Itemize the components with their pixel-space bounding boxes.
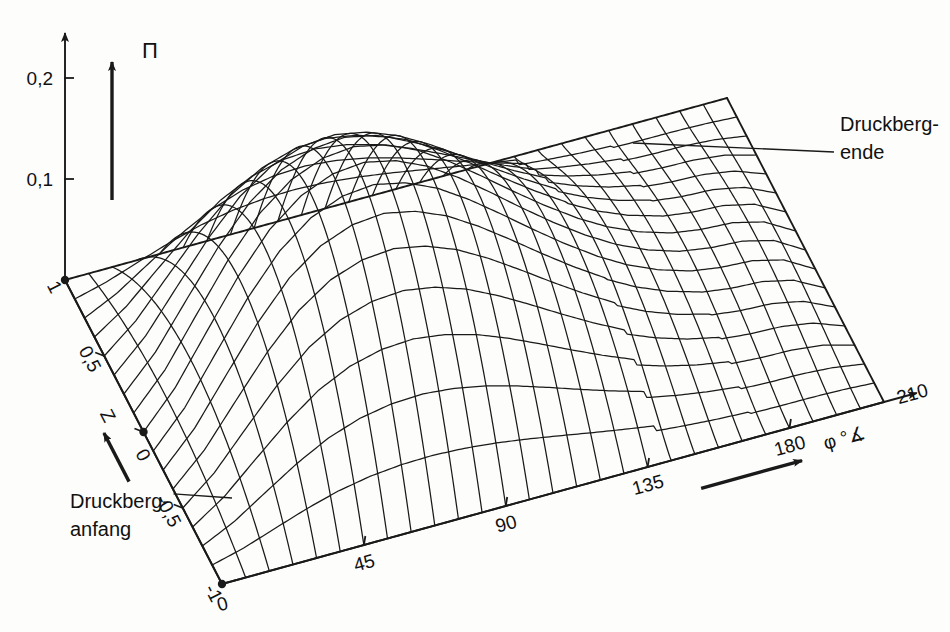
mesh-line-constant-phi bbox=[183, 205, 340, 552]
mesh-line-constant-phi bbox=[585, 137, 742, 441]
tick-label-z-0: 1 bbox=[43, 277, 67, 296]
tick-label-phi-4: 180 bbox=[772, 431, 808, 460]
tick-phi-4 bbox=[789, 419, 791, 428]
axis-phi bbox=[222, 393, 917, 584]
mesh-line-constant-phi bbox=[491, 162, 648, 467]
axis-z-zero-marker bbox=[139, 428, 147, 436]
mesh-line-constant-phi bbox=[301, 133, 458, 519]
mesh-line-constant-z bbox=[202, 364, 864, 546]
mesh-line-constant-z bbox=[212, 383, 874, 565]
mesh-line-constant-z bbox=[193, 335, 855, 527]
annotation-druckberg-ende-line1: Druckberg- bbox=[840, 113, 939, 135]
annotation-druckberg-anfang-line2: anfang bbox=[70, 518, 131, 540]
tick-phi-2 bbox=[506, 497, 508, 506]
annotation-druckberg-anfang-line1: Druckberg- bbox=[70, 490, 169, 512]
axis-label-pi: Π bbox=[142, 38, 158, 63]
leader-line-druckberg-anfang bbox=[173, 494, 232, 498]
surface-plot-canvas: Π0,20,104590135180210φ °∡10,50-0,5-1ZDru… bbox=[0, 0, 950, 632]
mesh-line-constant-phi bbox=[372, 141, 529, 499]
tick-label-phi-3: 135 bbox=[630, 470, 666, 499]
tick-label-phi-1: 45 bbox=[351, 550, 377, 576]
tick-label-z-2: 0 bbox=[132, 445, 156, 464]
tick-label-pi-0: 0,2 bbox=[27, 68, 53, 89]
axis-labels-group: Π0,20,104590135180210φ °∡10,50-0,5-1ZDru… bbox=[27, 38, 939, 615]
surface-plot-figure: Π0,20,104590135180210φ °∡10,50-0,5-1ZDru… bbox=[0, 0, 950, 632]
axis-label-phi: φ °∡ bbox=[821, 422, 867, 453]
leader-line-druckberg-ende bbox=[633, 143, 834, 152]
axis-label-z: Z bbox=[96, 406, 120, 426]
phi-direction-arrow bbox=[701, 461, 802, 489]
mesh-line-constant-phi bbox=[443, 160, 600, 480]
tick-phi-3 bbox=[648, 458, 650, 467]
tick-label-phi-2: 90 bbox=[493, 511, 519, 537]
mesh-line-constant-phi bbox=[231, 161, 388, 539]
z-direction-arrow bbox=[104, 433, 129, 482]
annotation-druckberg-ende-line2: ende bbox=[840, 141, 885, 163]
tick-label-phi-5: 210 bbox=[894, 379, 930, 408]
surface-mesh bbox=[65, 98, 884, 584]
mesh-line-constant-phi bbox=[349, 135, 506, 506]
mesh-line-constant-z bbox=[124, 135, 786, 394]
tick-label-pi-1: 0,1 bbox=[27, 169, 53, 190]
mesh-line-constant-z bbox=[85, 136, 747, 318]
axes-group bbox=[61, 33, 917, 588]
tick-phi-1 bbox=[364, 536, 366, 545]
